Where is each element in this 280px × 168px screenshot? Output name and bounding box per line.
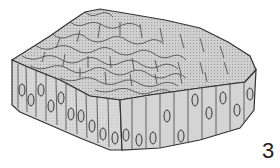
- epithelium-illustration: [0, 0, 280, 168]
- figure-label: 3: [262, 140, 274, 162]
- tissue-block-drawing: [0, 0, 280, 168]
